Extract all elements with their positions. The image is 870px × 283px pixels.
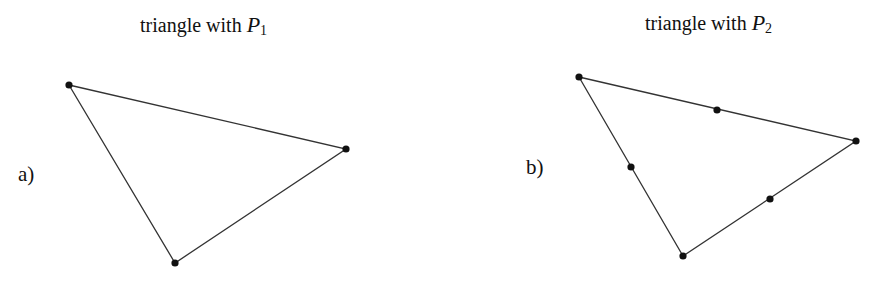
- vertex-node: [342, 145, 349, 152]
- vertex-node: [852, 137, 859, 144]
- triangle-b: [579, 77, 856, 256]
- vertex-node: [679, 252, 686, 259]
- vertex-node: [575, 73, 582, 80]
- triangle-a: [69, 85, 346, 263]
- edge-midpoint-node: [627, 163, 634, 170]
- vertex-node: [65, 81, 72, 88]
- vertex-node: [171, 259, 178, 266]
- edge-midpoint-node: [713, 106, 720, 113]
- edge-midpoint-node: [766, 195, 773, 202]
- triangle-diagrams: [0, 0, 870, 283]
